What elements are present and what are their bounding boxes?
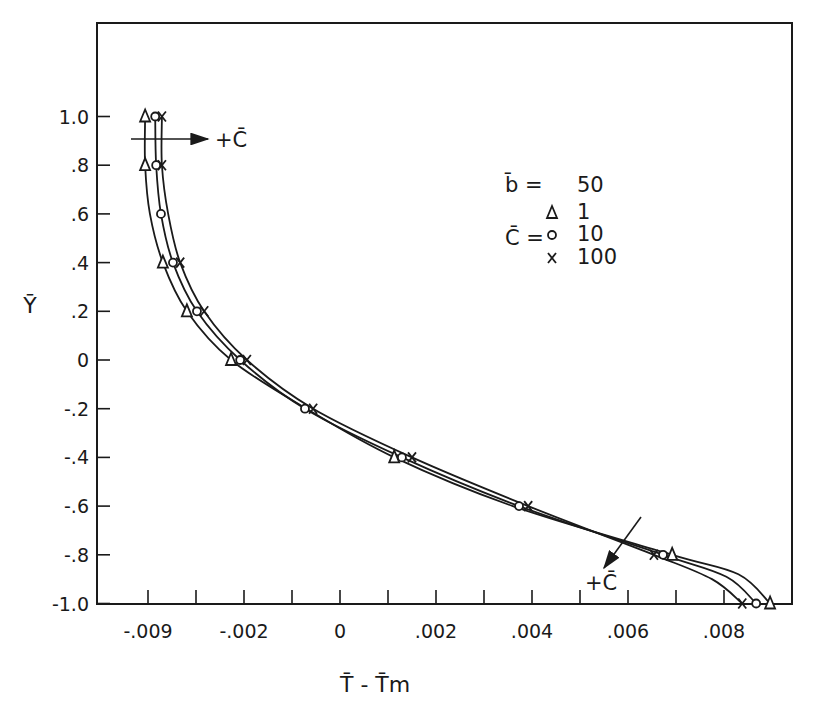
x-tick-label: .006	[607, 620, 649, 642]
series-line	[155, 117, 756, 604]
circle-marker-icon	[157, 210, 165, 218]
x-axis-ticks: -.009-.0020.002.004.006.008	[123, 590, 745, 642]
annotation-label: +C̄	[215, 127, 247, 152]
legend-entry-value: 1	[577, 200, 590, 224]
arrow-down-left-icon	[604, 517, 641, 568]
circle-marker-icon	[515, 502, 523, 510]
circle-marker-icon	[151, 113, 159, 121]
chart: -.009-.0020.002.004.006.008 1.0.8.6.4.20…	[0, 0, 814, 705]
legend-c-label: C̄ =	[505, 225, 544, 250]
triangle-marker-icon	[140, 110, 150, 122]
series-line	[161, 117, 742, 604]
x-tick-label: 0	[334, 620, 346, 642]
legend-b-value: 50	[577, 173, 604, 197]
y-tick-label: -1.0	[52, 593, 89, 615]
y-tick-label: 0	[77, 349, 89, 371]
x-tick-label: -.002	[219, 620, 268, 642]
y-axis-ticks: 1.0.8.6.4.20-.2-.4-.6-.8-1.0	[52, 106, 110, 615]
triangle-marker-icon	[158, 256, 168, 268]
x-axis-title: T̄ - T̄m	[339, 672, 410, 697]
y-tick-label: -.4	[64, 446, 89, 468]
legend: b̄ =50C̄ =110100	[504, 172, 617, 269]
y-tick-label: -.8	[64, 544, 89, 566]
circle-marker-icon	[752, 600, 760, 608]
y-tick-label: .8	[71, 154, 89, 176]
annotation-label: +C̄	[585, 570, 617, 595]
legend-entry-value: 10	[577, 222, 604, 246]
annotations: +C̄+C̄	[131, 127, 641, 595]
circle-marker-icon	[301, 405, 309, 413]
y-tick-label: -.2	[64, 398, 89, 420]
x-marker-icon	[408, 452, 416, 462]
y-tick-label: .6	[71, 203, 89, 225]
circle-marker-icon	[398, 453, 406, 461]
legend-b-label: b̄ =	[504, 172, 543, 197]
triangle-marker-icon	[547, 206, 557, 218]
circle-marker-icon	[659, 551, 667, 559]
legend-entry-value: 100	[577, 245, 617, 269]
y-tick-label: 1.0	[59, 106, 89, 128]
series-markers	[140, 110, 775, 609]
x-marker-icon	[548, 253, 556, 263]
circle-marker-icon	[169, 259, 177, 267]
x-tick-label: .002	[415, 620, 457, 642]
circle-marker-icon	[548, 231, 556, 239]
circle-marker-icon	[236, 356, 244, 364]
y-axis-title: Ȳ	[22, 293, 37, 318]
y-tick-label: -.6	[64, 495, 89, 517]
y-tick-label: .4	[71, 252, 89, 274]
circle-marker-icon	[193, 307, 201, 315]
y-tick-label: .2	[71, 300, 89, 322]
x-tick-label: .008	[703, 620, 745, 642]
triangle-marker-icon	[140, 158, 150, 170]
x-tick-label: -.009	[123, 620, 172, 642]
x-tick-label: .004	[511, 620, 553, 642]
